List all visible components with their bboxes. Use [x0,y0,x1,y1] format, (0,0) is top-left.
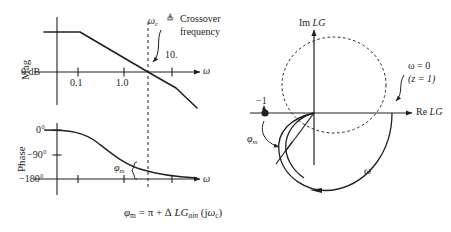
phase-margin-label: φm [114,163,124,174]
phase-x-axis-label: ω [203,174,210,184]
phase-margin-arc [262,121,279,147]
nyquist-phi-subscript: m [253,138,258,145]
phase-margin-brace [132,162,137,179]
imag-axis-prefix: Im [299,17,313,28]
crossover-text-line2: frequency [180,27,220,37]
phase-y-axis-label: Phase [16,146,27,172]
omega-zero-label-line2: (z = 1) [408,74,435,84]
nyquist-locus [279,113,392,190]
mag-x-axis-label: ω [203,66,210,76]
mag-xtick-label-1p0: 1.0 [116,78,129,88]
nyquist-real-axis-label: Re LG [416,107,442,117]
mag-xtick-label-10: 10. [165,50,178,60]
omega-zero-label-line1: ω = 0 [408,61,430,71]
mag-asymptote-curve [44,32,197,108]
mag-xtick-label-0p1: 0.1 [70,78,83,88]
formula-plus: + [156,206,165,218]
phase-ytick-label-minus180: −180° [19,174,44,184]
critical-point-marker [261,109,268,116]
formula-lg: LG [174,206,188,218]
nyquist-imag-axis-label: Im LG [299,18,325,28]
real-axis-lg: LG [430,106,443,117]
nyquist-omega-label: ω [364,166,371,176]
formula-phi-sub: m [130,211,136,220]
crossover-relation-symbol: ≜ [166,14,174,24]
formula-lg-sub: ain [188,211,198,220]
crossover-text-line1: Crossover [180,14,221,24]
formula-equals: = [139,206,148,218]
phase-ytick-label-minus90: −90° [27,150,47,160]
formula-delta: ∆ [165,206,172,218]
formula-pi: π [148,206,154,218]
crossover-omega-subscript: c [155,20,158,27]
phase-ytick-label-0: 0° [36,125,45,135]
real-axis-prefix: Re [416,106,430,117]
bode-phase-panel [34,123,200,195]
phase-margin-subscript: m [120,167,125,174]
mag-y-tick-label: 0 dB [21,67,40,77]
critical-point-label: −1 [256,96,267,106]
nyquist-panel [250,30,412,193]
formula-arg-close: ) [219,206,223,218]
crossover-leader-arrow [153,30,161,62]
crossover-omega-glyph: ω [148,15,155,26]
imag-axis-lg: LG [313,17,326,28]
nyquist-phase-margin-label: φm [247,134,257,145]
crossover-omega-symbol: ωc [148,16,158,27]
caption-formula: φm = π + ∆ LGain (jωc) [124,207,222,219]
omega-zero-leader-arrow [396,75,404,101]
figure-canvas [0,0,451,232]
figure-root: Mag 0 dB 0.1 1.0 10. ω ωc ≜ Crossover fr… [0,0,451,232]
